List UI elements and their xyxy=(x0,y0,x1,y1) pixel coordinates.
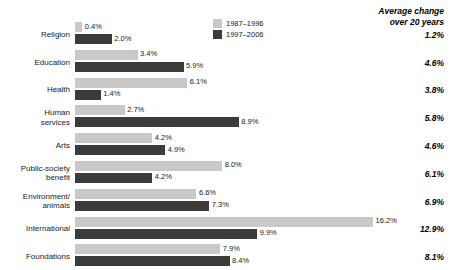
bar-value-label: 9.9% xyxy=(257,228,277,238)
chart-row: Environment/ animals6.6%7.3%6.9% xyxy=(0,189,452,215)
bar-value-label: 6.1% xyxy=(187,77,207,87)
bar-1997-2006 xyxy=(75,90,101,100)
bar-value-label: 7.9% xyxy=(220,244,240,254)
average-change-value: 6.9% xyxy=(384,197,444,207)
category-label: Environment/ animals xyxy=(0,192,70,211)
category-label: Public-society benefit xyxy=(0,164,70,183)
bar-track: 7.9% xyxy=(75,244,375,254)
category-label: Human services xyxy=(0,109,70,128)
bar-track: 4.9% xyxy=(75,145,375,155)
bar-1987-1996 xyxy=(75,50,138,60)
bar-track: 4.2% xyxy=(75,133,375,143)
category-label: International xyxy=(0,225,70,235)
category-label: Foundations xyxy=(0,252,70,262)
bar-1987-1996 xyxy=(75,244,220,254)
chart-rows: Religion0.4%2.0%1.2%Education3.4%5.9%4.6… xyxy=(0,22,452,270)
bar-group: 6.1%1.4% xyxy=(75,78,375,104)
chart-row: Public-society benefit8.0%4.2%6.1% xyxy=(0,161,452,187)
bar-1987-1996 xyxy=(75,105,125,115)
bar-1987-1996 xyxy=(75,217,373,227)
bar-value-label: 4.2% xyxy=(152,133,172,143)
bar-1997-2006 xyxy=(75,173,152,183)
chart-row: Religion0.4%2.0%1.2% xyxy=(0,22,452,48)
bar-value-label: 8.0% xyxy=(222,160,242,170)
bar-1987-1996 xyxy=(75,22,82,32)
bar-track: 0.4% xyxy=(75,22,375,32)
average-change-value: 6.1% xyxy=(384,169,444,179)
bar-track: 5.9% xyxy=(75,62,375,72)
bar-value-label: 4.2% xyxy=(152,172,172,182)
bar-group: 2.7%8.9% xyxy=(75,105,375,131)
chart-row: Foundations7.9%8.4%8.1% xyxy=(0,244,452,270)
bar-track: 6.6% xyxy=(75,189,375,199)
average-change-value: 5.8% xyxy=(384,113,444,123)
bar-value-label: 0.4% xyxy=(82,22,102,32)
average-change-header-line1: Average change xyxy=(324,6,444,17)
bar-track: 2.0% xyxy=(75,34,375,44)
chart-row: Human services2.7%8.9%5.8% xyxy=(0,105,452,131)
average-change-value: 1.2% xyxy=(384,30,444,40)
bar-1997-2006 xyxy=(75,117,239,127)
bar-group: 16.2%9.9% xyxy=(75,217,375,243)
bar-group: 8.0%4.2% xyxy=(75,161,375,187)
chart-row: Health6.1%1.4%3.8% xyxy=(0,78,452,104)
bar-1987-1996 xyxy=(75,161,222,171)
bar-1997-2006 xyxy=(75,34,112,44)
category-label: Arts xyxy=(0,141,70,151)
chart-row: Education3.4%5.9%4.6% xyxy=(0,50,452,76)
bar-1997-2006 xyxy=(75,256,230,266)
bar-track: 2.7% xyxy=(75,105,375,115)
bar-1987-1996 xyxy=(75,133,152,143)
bar-track: 8.0% xyxy=(75,161,375,171)
bar-1987-1996 xyxy=(75,189,196,199)
bar-1987-1996 xyxy=(75,78,187,88)
average-change-value: 12.9% xyxy=(384,224,444,234)
bar-value-label: 1.4% xyxy=(101,89,121,99)
bar-track: 1.4% xyxy=(75,90,375,100)
bar-1997-2006 xyxy=(75,229,257,239)
bar-group: 0.4%2.0% xyxy=(75,22,375,48)
bar-track: 4.2% xyxy=(75,173,375,183)
bar-group: 6.6%7.3% xyxy=(75,189,375,215)
chart-row: International16.2%9.9%12.9% xyxy=(0,217,452,243)
bar-group: 7.9%8.4% xyxy=(75,244,375,270)
category-label: Health xyxy=(0,86,70,96)
chart-row: Arts4.2%4.9%4.6% xyxy=(0,133,452,159)
bar-value-label: 8.4% xyxy=(230,256,250,266)
bar-value-label: 5.9% xyxy=(184,61,204,71)
average-change-value: 4.6% xyxy=(384,141,444,151)
category-label: Education xyxy=(0,58,70,68)
average-change-value: 8.1% xyxy=(384,252,444,262)
bar-value-label: 2.0% xyxy=(112,34,132,44)
bar-value-label: 2.7% xyxy=(125,105,145,115)
bar-1997-2006 xyxy=(75,62,184,72)
category-label: Religion xyxy=(0,30,70,40)
average-change-value: 4.6% xyxy=(384,58,444,68)
bar-group: 4.2%4.9% xyxy=(75,133,375,159)
bar-value-label: 6.6% xyxy=(196,188,216,198)
bar-track: 16.2% xyxy=(75,217,375,227)
bar-track: 9.9% xyxy=(75,229,375,239)
bar-value-label: 3.4% xyxy=(138,49,158,59)
bar-track: 3.4% xyxy=(75,50,375,60)
bar-track: 8.9% xyxy=(75,117,375,127)
bar-track: 8.4% xyxy=(75,256,375,266)
bar-1997-2006 xyxy=(75,145,165,155)
bar-1997-2006 xyxy=(75,201,209,211)
bar-group: 3.4%5.9% xyxy=(75,50,375,76)
bar-value-label: 8.9% xyxy=(239,117,259,127)
bar-value-label: 4.9% xyxy=(165,145,185,155)
grouped-bar-chart: 1987–1996 1997–2006 Average change over … xyxy=(0,0,452,270)
bar-track: 7.3% xyxy=(75,201,375,211)
average-change-value: 3.8% xyxy=(384,85,444,95)
bar-track: 6.1% xyxy=(75,78,375,88)
bar-value-label: 7.3% xyxy=(209,200,229,210)
